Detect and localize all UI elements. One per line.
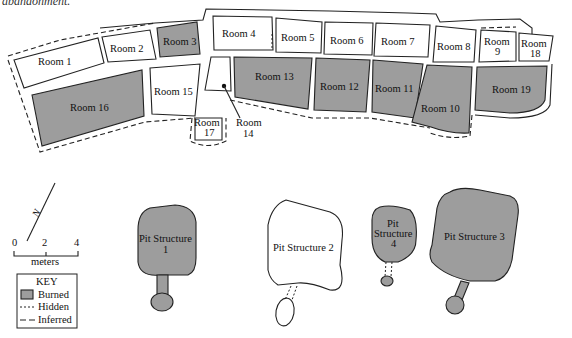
room-13-label: Room 13 — [255, 71, 294, 82]
room-5-label: Room 5 — [281, 32, 315, 43]
north-arrow: N — [27, 183, 55, 241]
room-1-label: Room 1 — [38, 56, 72, 67]
room-18-label-num: 18 — [530, 48, 541, 59]
outer-wall-upper-left — [100, 23, 155, 28]
room-6-label: Room 6 — [330, 35, 364, 46]
key-burned-swatch — [21, 290, 33, 299]
key-hidden-label: Hidden — [38, 301, 70, 312]
scale-tick-4: 4 — [74, 237, 80, 248]
pit-2-ventilator[interactable] — [274, 297, 297, 328]
room-9-label-num: 9 — [495, 46, 500, 57]
pit-4-ventilator[interactable] — [381, 276, 393, 286]
room-2-label: Room 2 — [110, 43, 144, 54]
pit-1-ventilator-shaft[interactable] — [157, 275, 168, 295]
key-burned-label: Burned — [38, 289, 70, 300]
pit-3-ventilator[interactable] — [446, 296, 464, 314]
scale-tick-0: 0 — [12, 237, 17, 248]
key-title: KEY — [36, 276, 58, 287]
room-17-label-num: 17 — [204, 127, 215, 138]
pit-3-label: Pit Structure 3 — [444, 231, 505, 242]
pit-2-label: Pit Structure 2 — [273, 242, 334, 253]
room-10-label: Room 10 — [421, 103, 460, 114]
room-14-label: Room — [236, 117, 262, 128]
pit-4-label-num: 4 — [391, 238, 397, 249]
room-11-label: Room 11 — [375, 83, 413, 94]
scale-tick-2: 2 — [42, 237, 47, 248]
legend-key: KEY Burned Hidden Inferred — [17, 274, 77, 328]
room-7-label: Room 7 — [381, 36, 415, 47]
north-label: N — [29, 206, 43, 219]
room-14-label-num: 14 — [243, 128, 254, 139]
key-inferred-label: Inferred — [38, 314, 73, 325]
room-14[interactable] — [205, 57, 231, 91]
scale-unit: meters — [31, 256, 59, 267]
pit-4-ventilator-shaft — [385, 262, 392, 277]
room-9-inferred-wall — [481, 27, 516, 28]
pit-1-ventilator[interactable] — [151, 293, 173, 311]
room-15-label: Room 15 — [154, 86, 193, 97]
room-16-label: Room 16 — [70, 102, 109, 113]
scale-bar: 0 2 4 meters — [12, 237, 80, 267]
room-12-label: Room 12 — [320, 81, 359, 92]
site-plan: Room 1 Room 2 Room 3 Room 4 Room 5 Room … — [0, 0, 572, 338]
pit-1-label-num: 1 — [163, 244, 168, 255]
room-19-label: Room 19 — [492, 84, 531, 95]
room-8-label: Room 8 — [437, 41, 471, 52]
room-3-label: Room 3 — [163, 36, 197, 47]
pit-1-label: Pit Structure — [139, 233, 192, 244]
room-13[interactable] — [234, 57, 312, 109]
room-4-label: Room 4 — [222, 28, 256, 39]
